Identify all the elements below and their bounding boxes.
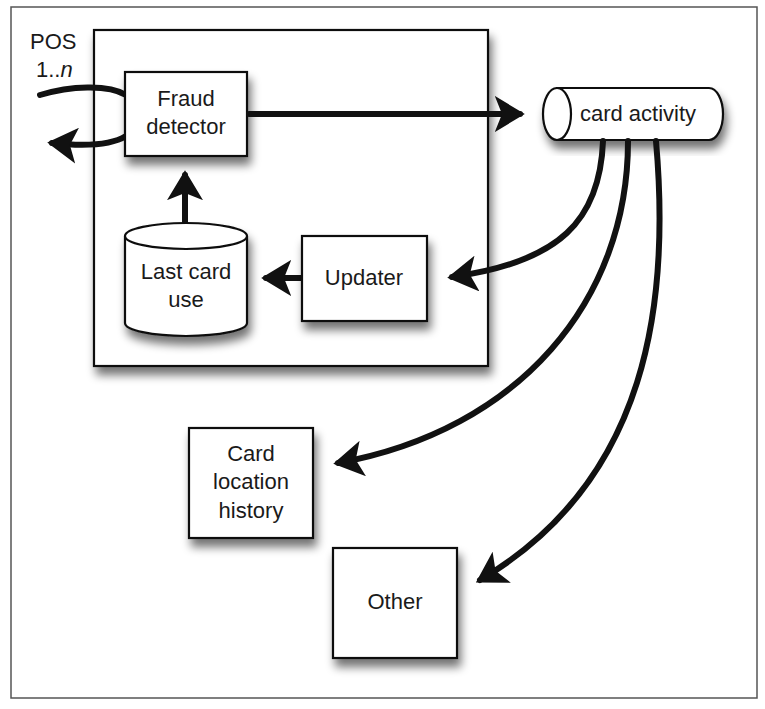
- fraud-detector-label-line2: detector: [146, 114, 226, 139]
- last-card-use-label-line2: use: [168, 287, 203, 312]
- card-location-history-label-line1: Card: [227, 441, 275, 466]
- other-label: Other: [367, 589, 422, 614]
- last-card-use-label-line1: Last card: [141, 259, 232, 284]
- card-activity-label: card activity: [580, 101, 696, 126]
- fraud-detector-label-line1: Fraud: [157, 86, 214, 111]
- pos-label-line1: POS: [30, 29, 76, 54]
- diagram-canvas: POS 1..n Fraud detector card activity La…: [0, 0, 765, 709]
- updater-label: Updater: [325, 265, 403, 290]
- card-location-history-label-line2: location: [213, 469, 289, 494]
- pos-label-line2: 1..n: [36, 57, 73, 82]
- card-location-history-label-line3: history: [219, 498, 284, 523]
